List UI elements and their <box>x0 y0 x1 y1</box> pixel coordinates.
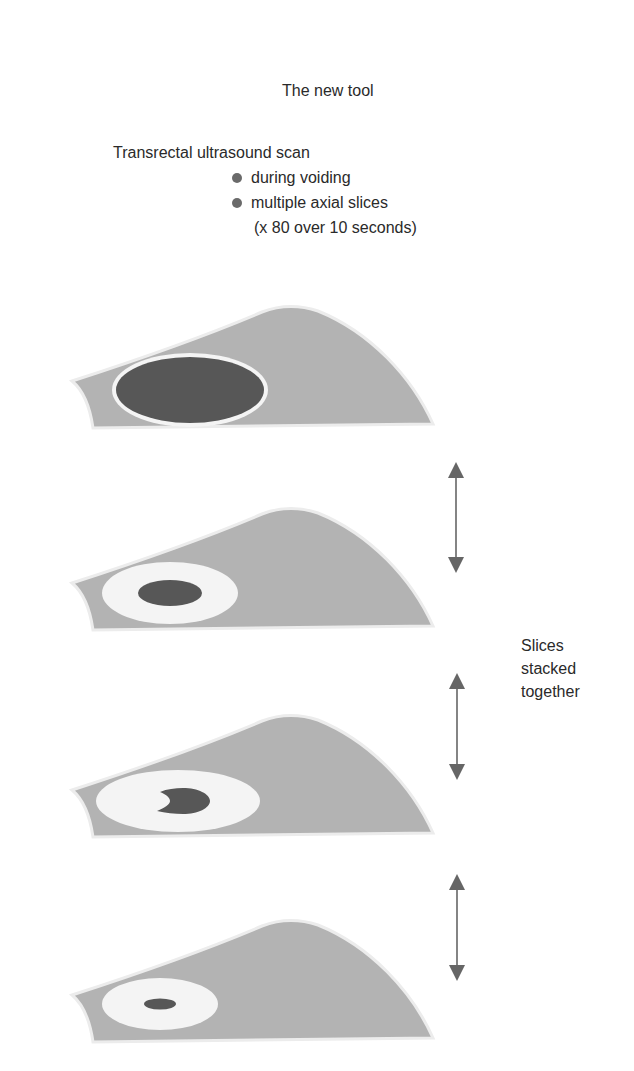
lumen-dark <box>138 580 202 606</box>
slice-2 <box>72 509 433 630</box>
slice-1 <box>72 307 433 428</box>
slice-3 <box>72 716 433 837</box>
slice-4 <box>72 921 433 1042</box>
slices-diagram <box>0 0 634 1071</box>
lumen-dark <box>144 999 176 1010</box>
lumen-dark <box>116 357 264 423</box>
